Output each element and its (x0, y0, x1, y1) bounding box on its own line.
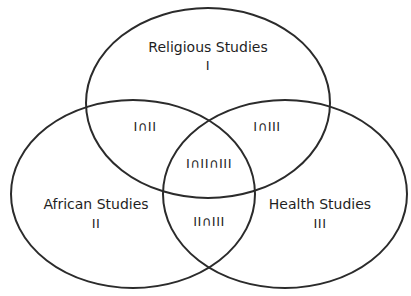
set-health-studies-numeral: III (313, 216, 326, 231)
intersection-i-ii-label: I∩II (133, 119, 156, 134)
intersection-i-ii-iii-label: I∩II∩III (186, 156, 232, 171)
intersection-ii-iii-label: II∩III (193, 214, 225, 229)
set-health-studies-circle (163, 100, 407, 288)
set-health-studies-label: Health Studies (269, 196, 371, 212)
set-african-studies-label: African Studies (43, 196, 148, 212)
venn-diagram: Religious Studies I African Studies II H… (0, 0, 411, 296)
intersection-i-iii-label: I∩III (253, 119, 280, 134)
set-african-studies-numeral: II (92, 216, 101, 231)
set-religious-studies-label: Religious Studies (148, 39, 267, 55)
set-religious-studies-numeral: I (206, 58, 210, 73)
